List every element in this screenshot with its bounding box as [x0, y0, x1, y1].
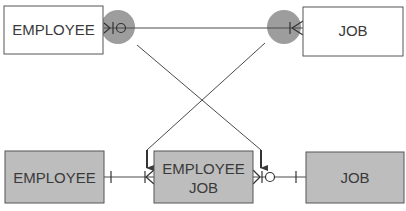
- entity-label: EMPLOYEE: [13, 169, 96, 186]
- er-diagram: EMPLOYEE JOB EMPLOYEE EMPLOYEE JOB JOB: [0, 0, 406, 211]
- entity-employee-top[interactable]: EMPLOYEE: [4, 6, 103, 54]
- entity-label: EMPLOYEE: [12, 21, 95, 38]
- entity-job-bottom[interactable]: JOB: [306, 152, 404, 203]
- highlight-circle-left: [101, 10, 135, 44]
- highlight-circle-right: [267, 10, 301, 44]
- entity-label-line2: JOB: [189, 179, 218, 196]
- entity-job-top[interactable]: JOB: [303, 7, 403, 56]
- entity-employee-bottom[interactable]: EMPLOYEE: [5, 151, 104, 203]
- transform-line-job-to-assoc: [147, 43, 265, 168]
- entity-label: JOB: [338, 22, 367, 39]
- entity-label: JOB: [340, 169, 369, 186]
- entity-label-line1: EMPLOYEE: [162, 160, 245, 177]
- entity-employee-job[interactable]: EMPLOYEE JOB: [154, 151, 253, 203]
